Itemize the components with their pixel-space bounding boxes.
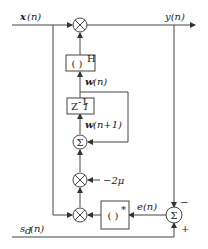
label-e: e(n) bbox=[137, 201, 157, 212]
svg-text:( ): ( ) bbox=[72, 58, 83, 69]
label-mu: −2μ bbox=[103, 175, 124, 186]
label-x: x (n) bbox=[19, 11, 41, 22]
svg-text:(n): (n) bbox=[27, 11, 41, 22]
top-multiplier-node bbox=[73, 18, 87, 32]
svg-text:(n): (n) bbox=[30, 223, 44, 234]
svg-text:x: x bbox=[19, 11, 27, 22]
delay-block: Z -1 I bbox=[67, 96, 94, 114]
label-w-next: w (n+1) bbox=[85, 119, 122, 130]
step-multiplier-node bbox=[73, 173, 87, 187]
label-w: w (n) bbox=[85, 76, 107, 87]
svg-text:(n): (n) bbox=[93, 76, 107, 87]
svg-text:( ): ( ) bbox=[108, 210, 119, 221]
label-sd: s d (n) bbox=[20, 223, 44, 236]
svg-text:*: * bbox=[121, 204, 126, 215]
minus-sign: − bbox=[180, 197, 188, 208]
error-sum-node: Σ bbox=[166, 207, 182, 223]
svg-text:H: H bbox=[87, 53, 96, 64]
conjugate-block: ( ) * bbox=[101, 201, 129, 229]
hermitian-block: ( ) H bbox=[66, 53, 96, 71]
svg-text:Σ: Σ bbox=[170, 210, 177, 221]
lms-block-diagram: Σ Σ − + ( ) H Z -1 I ( ) * x (n) y(n) w … bbox=[0, 0, 208, 249]
svg-text:Z: Z bbox=[71, 101, 78, 112]
svg-text:Σ: Σ bbox=[76, 137, 83, 148]
weight-sum-node: Σ bbox=[73, 135, 87, 149]
input-tap-line bbox=[53, 25, 72, 215]
bottom-multiplier-node bbox=[73, 208, 87, 222]
label-y: y(n) bbox=[164, 11, 185, 22]
plus-sign: + bbox=[181, 223, 189, 234]
svg-text:(n+1): (n+1) bbox=[93, 119, 122, 130]
